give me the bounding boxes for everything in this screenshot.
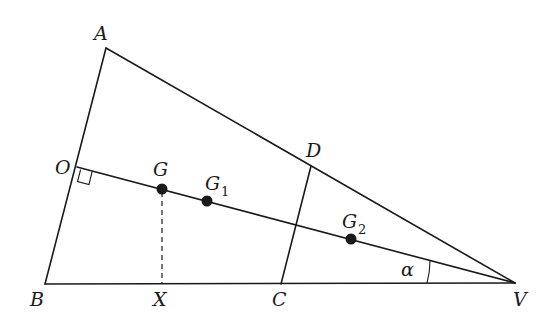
label-O: O	[55, 156, 71, 178]
label-G: G	[153, 158, 168, 180]
label-A: A	[92, 22, 108, 44]
label-X: X	[151, 288, 168, 310]
point-G2	[346, 234, 357, 245]
right-angle-marker	[78, 170, 93, 185]
geometry-diagram: A O B X C V D G G 1 G 2 α	[0, 0, 549, 325]
label-G2: G 2	[342, 210, 366, 237]
segment-BV	[45, 283, 515, 284]
segment-DC	[281, 166, 311, 284]
label-V: V	[513, 288, 529, 310]
point-G	[157, 184, 168, 195]
label-D: D	[305, 139, 321, 161]
label-G1-main: G	[205, 172, 220, 194]
label-alpha: α	[401, 258, 414, 280]
point-G1	[202, 196, 213, 207]
label-G1-sub: 1	[221, 184, 229, 199]
label-B: B	[29, 288, 44, 310]
label-G2-sub: 2	[358, 222, 366, 237]
label-G2-main: G	[342, 210, 357, 232]
angle-alpha-arc	[427, 261, 430, 284]
label-G1: G 1	[205, 172, 229, 199]
label-C: C	[272, 288, 287, 310]
